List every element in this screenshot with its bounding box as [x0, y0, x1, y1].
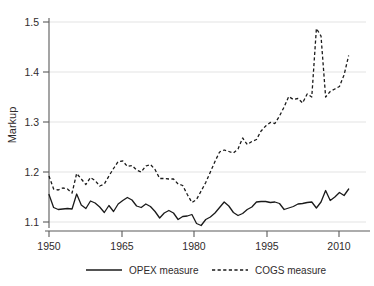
y-tick-label-1-5: 1.5 [24, 16, 39, 28]
legend-label-opex: OPEX measure [129, 265, 199, 276]
x-tick-label-1995: 1995 [255, 240, 279, 252]
x-tick-label-2010: 2010 [327, 240, 351, 252]
y-tick-label-1-3: 1.3 [24, 116, 39, 128]
legend-label-cogs: COGS measure [255, 265, 327, 276]
y-axis-title: Markup [6, 107, 18, 144]
y-tick-label-1-2: 1.2 [24, 166, 39, 178]
x-tick-label-1980: 1980 [182, 240, 206, 252]
y-tick-label-1-1: 1.1 [24, 216, 39, 228]
y-tick-label-1-4: 1.4 [24, 66, 39, 78]
x-tick-label-1950: 1950 [37, 240, 61, 252]
chart-canvas: 1.5 1.4 1.3 1.2 1.1 1950 1965 1980 1995 … [0, 0, 374, 286]
markup-line-chart-figure: 1.5 1.4 1.3 1.2 1.1 1950 1965 1980 1995 … [0, 0, 374, 286]
x-tick-label-1965: 1965 [110, 240, 134, 252]
